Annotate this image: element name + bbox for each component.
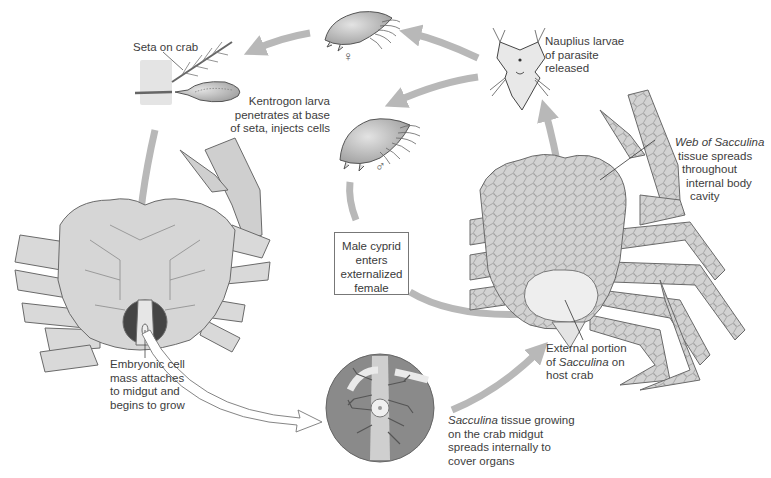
label-line: female <box>339 281 404 295</box>
label-line: spreads internally to <box>448 441 575 455</box>
label-line: penetrates at base <box>230 109 330 123</box>
label-line: mass attaches <box>110 372 185 386</box>
label-line: enters <box>339 253 404 267</box>
label-line: cavity <box>675 190 764 204</box>
label-text: of <box>546 356 559 368</box>
label-line: host crab <box>546 369 627 383</box>
label-line: internal body <box>675 177 764 191</box>
arrow-female-to-kentrogon <box>254 33 310 50</box>
label-line: throughout <box>675 163 764 177</box>
label-external-portion: External portion of Sacculina on host cr… <box>546 342 627 383</box>
label-kentrogon: Kentrogon larva penetrates at base of se… <box>230 95 330 136</box>
label-italic: Sacculina <box>448 414 498 426</box>
label-italic: Web of Sacculina <box>675 136 764 148</box>
label-sacculina-tissue-growing: Sacculina tissue growing on the crab mid… <box>448 414 575 468</box>
left-crab-illustration <box>15 138 270 372</box>
label-line: to midgut and <box>110 385 185 399</box>
label-line: Kentrogon larva <box>230 95 330 109</box>
label-line: Male cyprid <box>339 239 404 253</box>
label-seta-on-crab: Seta on crab <box>133 41 198 55</box>
nauplius-illustration <box>490 28 550 110</box>
label-line: externalized <box>339 267 404 281</box>
arrow-nauplius-to-male <box>395 77 478 102</box>
label-line: begins to grow <box>110 399 185 413</box>
label-line: cover organs <box>448 455 575 469</box>
label-web-of-sacculina: Web of Sacculina tissue spreads througho… <box>675 136 764 204</box>
label-line: External portion <box>546 342 627 356</box>
label-nauplius: Nauplius larvae of parasite released <box>545 35 624 76</box>
label-embryonic-cell-mass: Embryonic cell mass attaches to midgut a… <box>110 358 185 412</box>
label-italic: Sacculina <box>559 356 609 368</box>
male-symbol-icon: ♂ <box>375 158 386 174</box>
female-symbol-icon: ♀ <box>343 48 354 64</box>
arrow-inset-to-crab <box>452 350 540 410</box>
label-text: tissue growing <box>498 414 575 426</box>
label-line: released <box>545 62 624 76</box>
label-line: of parasite <box>545 49 624 63</box>
label-line: Embryonic cell <box>110 358 185 372</box>
sacculina-life-cycle-diagram: Seta on crab Kentrogon larva penetrates … <box>0 0 771 478</box>
arrow-nauplius-to-female <box>410 33 478 58</box>
female-cyprid-illustration <box>325 12 400 51</box>
label-text: on <box>609 356 625 368</box>
arrow-male-to-box <box>350 182 356 220</box>
label-line: on the crab midgut <box>448 428 575 442</box>
label-line: Nauplius larvae <box>545 35 624 49</box>
midgut-inset-illustration <box>326 354 434 462</box>
label-line: tissue spreads <box>675 150 764 164</box>
label-male-cyprid-box: Male cyprid enters externalized female <box>334 232 409 295</box>
label-line: of seta, injects cells <box>230 122 330 136</box>
